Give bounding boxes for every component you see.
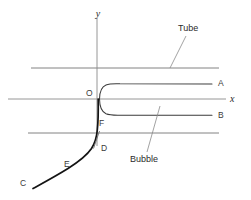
bubble-leader-line (147, 106, 160, 152)
bubble-label: Bubble (130, 154, 158, 164)
point-a-label: A (218, 78, 224, 88)
tube-label: Tube (178, 23, 198, 33)
point-e-label: E (64, 159, 70, 169)
point-f-label: F (99, 118, 104, 128)
tube-leader-line (170, 36, 186, 68)
y-axis-label: y (95, 8, 101, 19)
point-c-label: C (20, 178, 26, 188)
bubble-lower-branch-curve (100, 99, 213, 115)
meniscus-curve-OFEC (33, 99, 98, 189)
origin-label: O (86, 88, 93, 98)
diagram-canvas: y x O Tube Bubble A B C D E F (0, 0, 251, 200)
bubble-tube-diagram: y x O Tube Bubble A B C D E F (0, 0, 251, 200)
point-d-label: D (101, 143, 107, 153)
x-axis-label: x (229, 93, 235, 104)
point-b-label: B (218, 110, 224, 120)
bubble-upper-branch-curve (100, 84, 213, 99)
